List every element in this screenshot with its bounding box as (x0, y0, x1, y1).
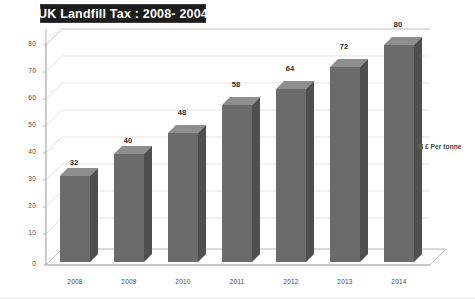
y-tick-label: 0 (14, 260, 36, 267)
x-tick-label-2011: 2011 (214, 278, 260, 285)
legend-swatch-icon (418, 144, 423, 149)
x-tick-label-2010: 2010 (160, 278, 206, 285)
bar-chart: UK Landfill Tax : 2008- 2004 (0, 0, 475, 299)
legend-label: £ Per tonne (425, 143, 462, 150)
y-tick-label: 30 (14, 175, 36, 182)
plot-area (0, 0, 475, 299)
bar-2009[interactable] (114, 146, 152, 262)
y-tick-label: 60 (14, 94, 36, 101)
y-tick-label: 40 (14, 148, 36, 155)
chart-title: UK Landfill Tax : 2008- 2004 (40, 4, 206, 23)
bar-2013[interactable] (330, 59, 368, 262)
x-tick-label-2012: 2012 (268, 278, 314, 285)
bar-value-label-2009: 40 (108, 136, 148, 145)
bar-2014[interactable] (384, 37, 422, 262)
bar-2010[interactable] (168, 125, 206, 262)
x-tick-label-2009: 2009 (106, 278, 152, 285)
x-tick-label-2013: 2013 (322, 278, 368, 285)
bar-2012[interactable] (276, 81, 314, 262)
bar-2011[interactable] (222, 97, 260, 262)
bar-value-label-2013: 72 (324, 42, 364, 51)
bar-2008[interactable] (60, 168, 98, 262)
bar-value-label-2011: 58 (216, 80, 256, 89)
x-tick-label-2008: 2008 (52, 278, 98, 285)
y-tick-label: 50 (14, 121, 36, 128)
bar-value-label-2008: 32 (54, 158, 94, 167)
y-tick-label: 10 (14, 229, 36, 236)
bar-value-label-2010: 48 (162, 108, 202, 117)
bar-value-label-2012: 64 (270, 64, 310, 73)
y-tick-label: 70 (14, 67, 36, 74)
chart-legend: £ Per tonne (418, 143, 462, 150)
y-tick-label: 20 (14, 202, 36, 209)
y-tick-label: 80 (14, 40, 36, 47)
bar-value-label-2014: 80 (378, 20, 418, 29)
x-tick-label-2014: 2014 (376, 278, 422, 285)
